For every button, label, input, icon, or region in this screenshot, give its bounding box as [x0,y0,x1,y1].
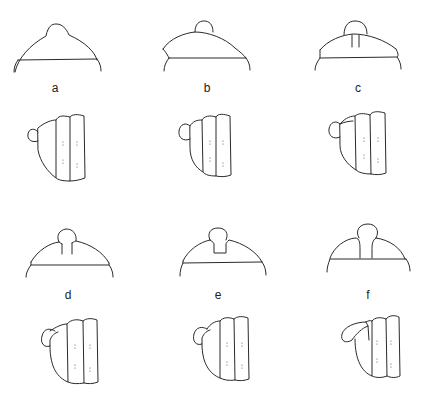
side-view-f [342,316,400,378]
side-view-b [179,114,231,176]
diagram-canvas [0,0,430,401]
head-view-f [327,224,410,272]
panel-label-c: c [348,81,368,95]
panel-label-a: a [45,81,65,95]
head-view-d [26,229,113,277]
panel-label-f: f [358,288,378,302]
panel-label-e: e [208,288,228,302]
head-view-c [315,21,401,70]
head-view-b [163,21,250,71]
side-view-a [28,115,85,181]
side-view-d [41,319,98,384]
side-view-e [193,317,249,381]
head-view-a [14,24,101,72]
panel-label-b: b [197,81,217,95]
side-view-c [329,112,386,175]
panel-label-d: d [58,288,78,302]
head-view-e [180,228,266,276]
